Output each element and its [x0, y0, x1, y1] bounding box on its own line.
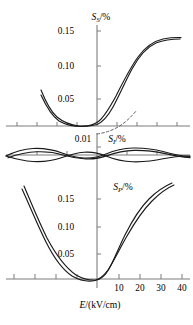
panel-middle: SI/% 0.01: [6, 133, 190, 178]
top-y-ticklabel-2: 0.05: [58, 94, 75, 104]
bottom-y-ticklabel-2: 0.05: [58, 249, 75, 259]
panel-top-title: SS/%: [92, 11, 111, 23]
panel-bottom-title-unit: /%: [122, 181, 133, 192]
top-y-ticklabel-1: 0.10: [58, 61, 75, 71]
bottom-x-ticklabel-0: 10: [114, 283, 124, 293]
panel-middle-title-unit: /%: [115, 133, 126, 144]
panel-top: SS/% 0.15 0.10 0.05: [6, 11, 190, 134]
middle-y-ticklabel-0: 0.01: [75, 134, 92, 144]
bottom-curve-branch-forward: [24, 183, 172, 280]
top-curve-branch-reverse: [41, 38, 181, 127]
top-curve-branch-forward: [41, 39, 180, 126]
top-y-tickmarks: [97, 31, 101, 99]
panel-bottom: SP/% 0.15 0.10 0.05 10 20 30 40: [6, 178, 190, 293]
panel-middle-title: SI/%: [108, 133, 126, 145]
bottom-y-ticklabel-1: 0.10: [58, 222, 75, 232]
panel-bottom-title: SP/%: [113, 181, 133, 193]
bottom-x-ticklabel-3: 40: [177, 283, 187, 293]
bottom-x-tickmarks: [14, 274, 182, 279]
x-axis-title: E/(kV/cm): [78, 299, 120, 311]
bottom-y-tickmarks: [97, 199, 101, 254]
top-y-ticklabel-0: 0.15: [58, 26, 75, 36]
bottom-x-ticklabel-1: 20: [135, 283, 145, 293]
x-axis-title-unit: /(kV/cm): [85, 299, 120, 311]
bottom-x-ticklabel-2: 30: [156, 283, 166, 293]
panel-top-title-unit: /%: [100, 11, 111, 22]
bottom-y-ticklabel-0: 0.15: [58, 194, 75, 204]
figure-container: SS/% 0.15 0.10 0.05: [0, 0, 193, 325]
